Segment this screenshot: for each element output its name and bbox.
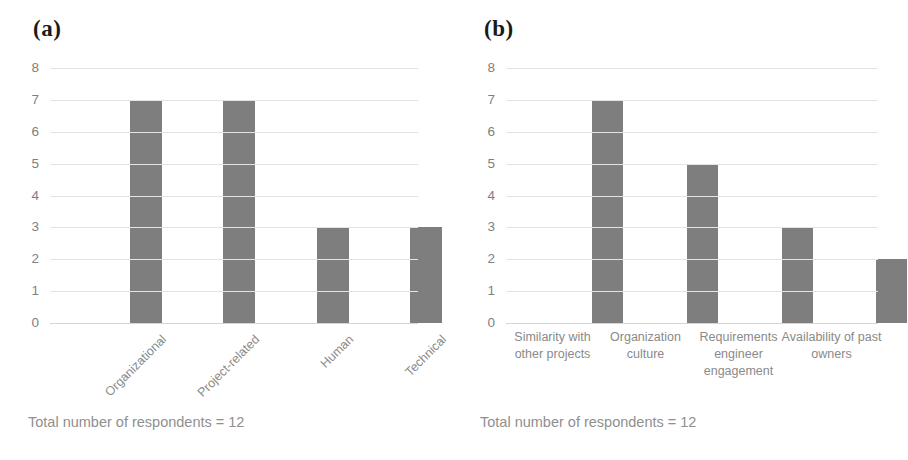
bar	[130, 100, 162, 323]
gridline	[50, 68, 418, 69]
panel-b-tag: (b)	[484, 16, 514, 42]
y-axis-tick-label: 8	[487, 61, 495, 75]
gridline	[506, 291, 878, 292]
gridline	[506, 227, 878, 228]
gridline	[506, 132, 878, 133]
y-axis-tick-label: 6	[31, 125, 39, 139]
bar	[317, 227, 349, 323]
gridline	[50, 100, 418, 101]
x-axis-tick-label: Human	[319, 333, 356, 370]
x-axis-tick-label: Project-related	[196, 333, 262, 399]
y-axis-tick-label: 1	[487, 284, 495, 298]
gridline	[506, 323, 878, 324]
y-axis-tick-label: 5	[31, 157, 39, 171]
y-axis-tick-label: 3	[31, 221, 39, 235]
gridline	[506, 164, 878, 165]
y-axis-tick-label: 4	[487, 189, 495, 203]
y-axis-tick-label: 8	[31, 61, 39, 75]
x-axis-tick-label: Organization culture	[595, 329, 696, 363]
x-axis-tick-label: Availability of past owners	[781, 329, 882, 363]
bar	[687, 164, 718, 323]
panel-b-plot-area: 012345678	[506, 68, 878, 323]
panel-b-x-axis-labels: Similarity with other projectsOrganizati…	[506, 329, 878, 399]
gridline	[506, 68, 878, 69]
gridline	[50, 196, 418, 197]
y-axis-tick-label: 2	[31, 253, 39, 267]
gridline	[506, 259, 878, 260]
y-axis-tick-label: 4	[31, 189, 39, 203]
gridline	[50, 164, 418, 165]
gridline	[506, 196, 878, 197]
gridline	[50, 259, 418, 260]
panel-a-plot-area: 012345678	[50, 68, 418, 323]
chart-panel-b: (b) 012345678 Similarity with other proj…	[454, 0, 908, 460]
y-axis-tick-label: 5	[487, 157, 495, 171]
y-axis-tick-label: 7	[31, 93, 39, 107]
panel-a-caption: Total number of respondents = 12	[28, 414, 244, 430]
y-axis-tick-label: 2	[487, 253, 495, 267]
chart-panel-a: (a) 012345678 OrganizationalProject-rela…	[0, 0, 454, 460]
panel-a-x-axis-labels: OrganizationalProject-relatedHumanTechni…	[0, 327, 454, 422]
y-axis-tick-label: 1	[31, 284, 39, 298]
y-axis-tick-label: 0	[487, 316, 495, 330]
gridline	[506, 100, 878, 101]
y-axis-tick-label: 3	[487, 221, 495, 235]
bar	[876, 259, 907, 323]
panel-b-caption: Total number of respondents = 12	[480, 414, 696, 430]
x-axis-tick-label: Organizational	[103, 333, 169, 399]
bar	[592, 100, 623, 323]
panel-a-tag: (a)	[33, 16, 61, 42]
gridline	[50, 132, 418, 133]
y-axis-tick-label: 6	[487, 125, 495, 139]
y-axis-tick-label: 7	[487, 93, 495, 107]
bar	[782, 227, 813, 323]
gridline	[50, 291, 418, 292]
gridline	[50, 227, 418, 228]
x-axis-tick-label: Technical	[403, 333, 449, 379]
x-axis-tick-label: Similarity with other projects	[502, 329, 603, 363]
x-axis-tick-label: Requirements engineer engagement	[688, 329, 789, 380]
bar	[223, 100, 255, 323]
gridline	[50, 323, 418, 324]
bar	[410, 227, 442, 323]
